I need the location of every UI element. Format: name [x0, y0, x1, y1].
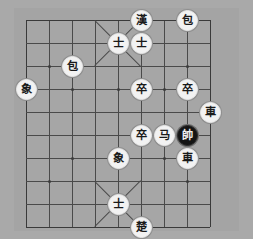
piece-chariot-lower[interactable]: 車 — [177, 148, 198, 169]
piece-glyph: 卒 — [181, 83, 192, 94]
piece-pawn-lower[interactable]: 卒 — [131, 125, 152, 146]
piece-glyph: 包 — [181, 14, 192, 25]
piece-chariot-right-edge[interactable]: 車 — [200, 102, 221, 123]
star-point-4 — [71, 88, 74, 91]
star-point-0 — [48, 65, 51, 68]
piece-glyph: 車 — [181, 152, 192, 163]
piece-general-chu[interactable]: 楚 — [131, 217, 152, 238]
piece-advisor-bottom[interactable]: 士 — [108, 194, 129, 215]
piece-elephant-left[interactable]: 象 — [16, 79, 37, 100]
star-point-6 — [163, 88, 166, 91]
grid-file-line-2 — [72, 20, 73, 227]
piece-glyph: 卒 — [135, 83, 146, 94]
piece-elephant-lower[interactable]: 象 — [108, 148, 129, 169]
star-point-9 — [163, 157, 166, 160]
grid-file-line-7 — [187, 20, 188, 227]
piece-pawn-center[interactable]: 卒 — [131, 79, 152, 100]
piece-advisor-top-left[interactable]: 士 — [108, 33, 129, 54]
piece-cannon-upper-left[interactable]: 包 — [62, 56, 83, 77]
grid-rank-line-2 — [26, 66, 210, 67]
star-point-1 — [186, 65, 189, 68]
piece-pawn-right[interactable]: 卒 — [177, 79, 198, 100]
xiangqi-app: 漢包士士包象卒卒車卒马帥車象士楚 — [0, 0, 253, 239]
piece-glyph: 卒 — [135, 129, 146, 140]
piece-glyph: 马 — [158, 129, 169, 140]
grid-rank-line-9 — [26, 227, 210, 228]
piece-glyph: 士 — [135, 37, 146, 48]
piece-advisor-top-right[interactable]: 士 — [131, 33, 152, 54]
piece-glyph: 象 — [20, 83, 31, 94]
piece-glyph: 包 — [66, 60, 77, 71]
grid-file-line-1 — [49, 20, 50, 227]
piece-glyph: 楚 — [135, 221, 146, 232]
piece-glyph: 漢 — [135, 14, 146, 25]
piece-general-black[interactable]: 帥 — [177, 125, 198, 146]
piece-cannon-top-right[interactable]: 包 — [177, 10, 198, 31]
piece-general-han[interactable]: 漢 — [131, 10, 152, 31]
grid-file-line-3 — [95, 20, 96, 227]
star-point-7 — [71, 157, 74, 160]
grid-file-line-6 — [164, 20, 165, 227]
star-point-2 — [48, 180, 51, 183]
piece-glyph: 象 — [112, 152, 123, 163]
xiangqi-board[interactable]: 漢包士士包象卒卒車卒马帥車象士楚 — [26, 20, 210, 227]
piece-horse-center[interactable]: 马 — [154, 125, 175, 146]
grid-rank-line-4 — [26, 112, 210, 113]
piece-glyph: 車 — [204, 106, 215, 117]
grid-file-line-0 — [26, 20, 27, 227]
grid-rank-line-7 — [26, 181, 210, 182]
piece-glyph: 士 — [112, 198, 123, 209]
grid-file-line-8 — [210, 20, 211, 227]
star-point-5 — [117, 88, 120, 91]
piece-glyph: 士 — [112, 37, 123, 48]
piece-glyph: 帥 — [181, 129, 192, 140]
star-point-3 — [186, 180, 189, 183]
